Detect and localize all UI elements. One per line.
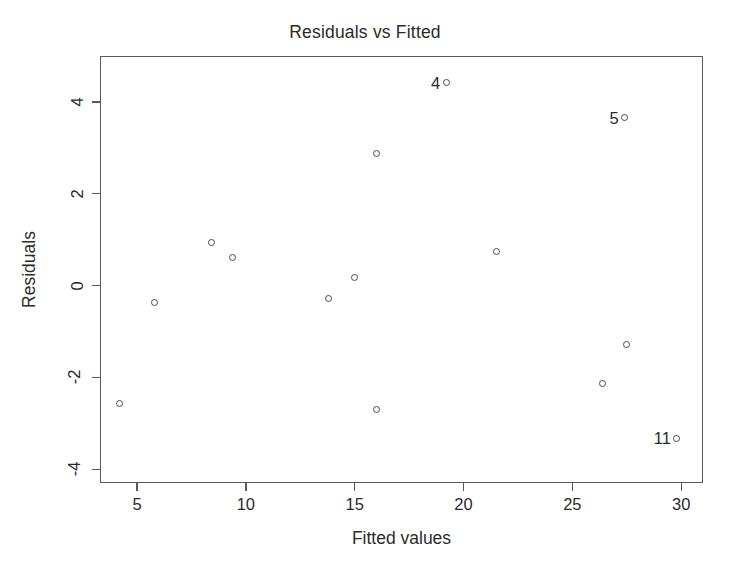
data-point: [208, 239, 215, 246]
x-tick-label: 5: [132, 495, 141, 514]
data-point: [373, 150, 380, 157]
point-label-4: 4: [431, 73, 446, 92]
data-point: [351, 274, 358, 281]
data-point: [599, 380, 606, 387]
x-tick-mark: [681, 483, 682, 491]
x-tick-mark: [572, 483, 573, 491]
y-axis-label-text: Residuals: [19, 231, 40, 308]
residuals-vs-fitted-plot: Residuals vs Fitted 4511 51015202530 420…: [0, 0, 730, 578]
y-tick-mark: [92, 377, 100, 378]
y-tick-mark: [92, 101, 100, 102]
x-tick-label: 20: [454, 495, 472, 514]
data-point: [229, 254, 236, 261]
point-label-5: 5: [609, 108, 624, 127]
data-point: [623, 341, 630, 348]
x-tick-label: 10: [237, 495, 255, 514]
x-tick-mark: [463, 483, 464, 491]
y-tick-label: 4: [73, 92, 82, 111]
x-tick-label: 15: [346, 495, 364, 514]
plot-area: 4511: [100, 56, 703, 483]
x-tick-label: 30: [672, 495, 690, 514]
y-tick-label: 2: [73, 184, 82, 203]
data-point: [116, 400, 123, 407]
data-point: [325, 295, 332, 302]
x-tick-mark: [354, 483, 355, 491]
x-axis-label: Fitted values: [100, 528, 703, 549]
y-tick-label: -4: [67, 460, 82, 479]
chart-title: Residuals vs Fitted: [0, 22, 730, 43]
data-point: [151, 299, 158, 306]
y-tick-label: 0: [73, 276, 82, 295]
y-tick-mark: [92, 193, 100, 194]
y-axis-label: Residuals: [18, 56, 40, 483]
data-point: [373, 406, 380, 413]
data-point: [493, 248, 500, 255]
y-tick-mark: [92, 469, 100, 470]
x-tick-label: 25: [563, 495, 581, 514]
x-tick-mark: [136, 483, 137, 491]
point-label-11: 11: [654, 429, 677, 448]
y-tick-mark: [92, 285, 100, 286]
y-tick-label: -2: [67, 368, 82, 387]
x-tick-mark: [245, 483, 246, 491]
